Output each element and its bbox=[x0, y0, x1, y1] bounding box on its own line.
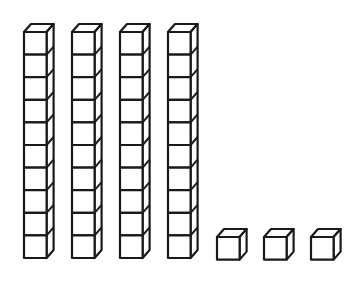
unit-cubes-group bbox=[217, 229, 341, 260]
cube-front-face bbox=[72, 235, 95, 258]
cube-front-face bbox=[120, 235, 143, 258]
cube-front-face bbox=[24, 213, 47, 236]
cube-front-face bbox=[72, 145, 95, 168]
cube-front-face bbox=[24, 32, 47, 55]
cube-front-face bbox=[120, 190, 143, 213]
cube-front-face bbox=[24, 190, 47, 213]
cube-front-face bbox=[120, 32, 143, 55]
cube-front-face bbox=[72, 32, 95, 55]
tens-rod-4 bbox=[168, 24, 198, 258]
blocks-canvas bbox=[0, 0, 364, 288]
cube-front-face bbox=[120, 168, 143, 191]
cube-front-face bbox=[24, 145, 47, 168]
cube-front-face bbox=[168, 145, 191, 168]
cube-front-face bbox=[168, 32, 191, 55]
cube-front-face bbox=[120, 100, 143, 123]
cube-front-face bbox=[72, 55, 95, 78]
cube-front-face bbox=[168, 100, 191, 123]
cube-front-face bbox=[168, 213, 191, 236]
cube-front-face bbox=[24, 100, 47, 123]
cube-front-face bbox=[168, 77, 191, 100]
cube-front-face bbox=[24, 122, 47, 145]
unit-cube-2 bbox=[264, 229, 294, 260]
cube-front-face bbox=[120, 213, 143, 236]
tens-rods-group bbox=[24, 24, 198, 258]
cube-front-face bbox=[24, 168, 47, 191]
cube-front-face bbox=[264, 237, 287, 260]
tens-rod-2 bbox=[72, 24, 102, 258]
unit-cube-1 bbox=[217, 229, 247, 260]
cube-front-face bbox=[311, 237, 334, 260]
cube-front-face bbox=[168, 55, 191, 78]
cube-front-face bbox=[72, 168, 95, 191]
cube-front-face bbox=[72, 100, 95, 123]
cube-front-face bbox=[168, 122, 191, 145]
cube-front-face bbox=[168, 168, 191, 191]
cube-front-face bbox=[168, 190, 191, 213]
cube-front-face bbox=[168, 235, 191, 258]
cube-front-face bbox=[120, 145, 143, 168]
cube-front-face bbox=[72, 77, 95, 100]
cube-front-face bbox=[217, 237, 240, 260]
cube-front-face bbox=[24, 235, 47, 258]
cube-front-face bbox=[120, 122, 143, 145]
base-ten-blocks-figure: Base-ten blocks: 4 tens rods and 3 unit … bbox=[0, 0, 364, 288]
cube-front-face bbox=[120, 77, 143, 100]
cube-front-face bbox=[24, 77, 47, 100]
cube-front-face bbox=[120, 55, 143, 78]
cube-front-face bbox=[72, 190, 95, 213]
tens-rod-1 bbox=[24, 24, 54, 258]
unit-cube-3 bbox=[311, 229, 341, 260]
cube-front-face bbox=[24, 55, 47, 78]
cube-front-face bbox=[72, 122, 95, 145]
cube-front-face bbox=[72, 213, 95, 236]
tens-rod-3 bbox=[120, 24, 150, 258]
